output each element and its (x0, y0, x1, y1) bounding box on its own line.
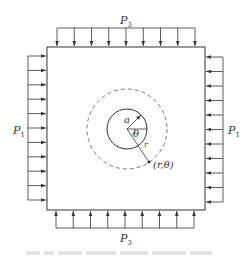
top-load-arrows (57, 28, 195, 46)
hole-radius-label: a (124, 115, 130, 125)
point-marker (148, 161, 151, 164)
plate-diagram (0, 0, 246, 259)
bottom-load-arrows (56, 211, 194, 228)
bottom-load-label: P3 (120, 233, 132, 247)
point-label: (r,θ) (153, 160, 174, 170)
top-load-label: P3 (120, 15, 132, 29)
plate-square (47, 47, 205, 210)
radius-label: r (144, 141, 148, 149)
angle-label: θ (133, 129, 139, 139)
left-load-label: P1 (13, 125, 25, 139)
right-load-arrows (206, 57, 223, 202)
left-load-arrows (28, 56, 46, 200)
right-load-label: P1 (228, 125, 240, 139)
figure-caption (26, 251, 216, 257)
